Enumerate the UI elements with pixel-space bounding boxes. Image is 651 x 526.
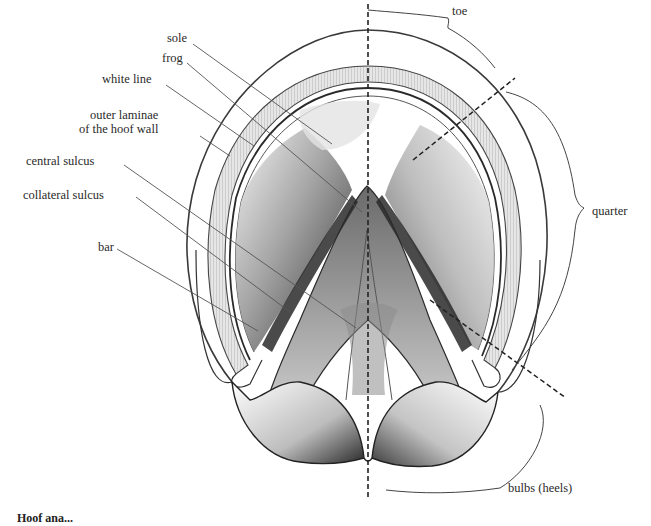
label-central-sulcus: central sulcus [26, 154, 94, 168]
label-frog: frog [162, 51, 183, 65]
figure-caption-partial: Hoof ana... [17, 511, 73, 526]
leader-white-line [166, 85, 254, 146]
toe-brace [368, 10, 495, 68]
bulbs-left [232, 382, 364, 464]
label-outer-laminae: outer laminae of the hoof wall [78, 108, 158, 136]
label-collateral-sulcus: collateral sulcus [23, 188, 104, 202]
label-quarter: quarter [592, 204, 627, 218]
label-outer-laminae-line2: of the hoof wall [78, 122, 158, 136]
leader-outer-laminae [200, 136, 230, 156]
label-bulbs-heels: bulbs (heels) [508, 481, 572, 495]
label-sole: sole [167, 31, 187, 45]
label-bar: bar [98, 240, 114, 254]
label-toe: toe [452, 4, 467, 18]
label-outer-laminae-line1: outer laminae [78, 108, 158, 122]
label-white-line: white line [102, 72, 152, 86]
